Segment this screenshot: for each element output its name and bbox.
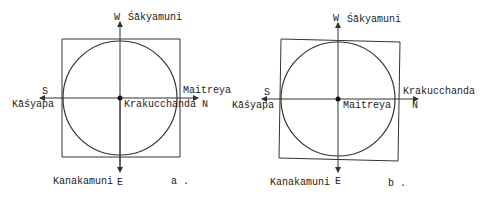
- diagram-canvas: W Śākyamuni S Kāśyapa Maitreya N Krakucc…: [0, 0, 484, 197]
- label-bottom: Kanakamuni: [270, 177, 330, 188]
- caption-b: b .: [388, 178, 406, 189]
- diagram-a: W Śākyamuni S Kāśyapa Maitreya N Krakucc…: [12, 10, 231, 188]
- dir-west: W: [333, 13, 339, 24]
- dir-north: N: [412, 100, 418, 111]
- label-center: Krakucchanda: [124, 99, 196, 110]
- dir-east: E: [117, 177, 123, 188]
- dir-south: S: [264, 87, 270, 98]
- center-dot: [336, 97, 341, 102]
- label-left: Kāśyapa: [232, 100, 274, 111]
- dir-south: S: [42, 86, 48, 97]
- label-top: Śākyamuni: [128, 10, 182, 23]
- diagram-b: W Śākyamuni S Kāśyapa Krakucchanda N Mai…: [232, 12, 475, 189]
- caption-a: a .: [171, 176, 189, 187]
- dir-north: N: [202, 99, 208, 110]
- dir-east: E: [335, 176, 341, 187]
- label-center: Maitreya: [343, 100, 391, 111]
- label-right: Maitreya: [183, 85, 231, 96]
- label-bottom: Kanakamuni: [53, 176, 113, 187]
- label-left: Kāśyapa: [12, 99, 54, 110]
- label-right: Krakucchanda: [403, 86, 475, 97]
- dir-west: W: [114, 12, 120, 23]
- center-dot: [118, 96, 123, 101]
- label-top: Śākyamuni: [347, 12, 401, 25]
